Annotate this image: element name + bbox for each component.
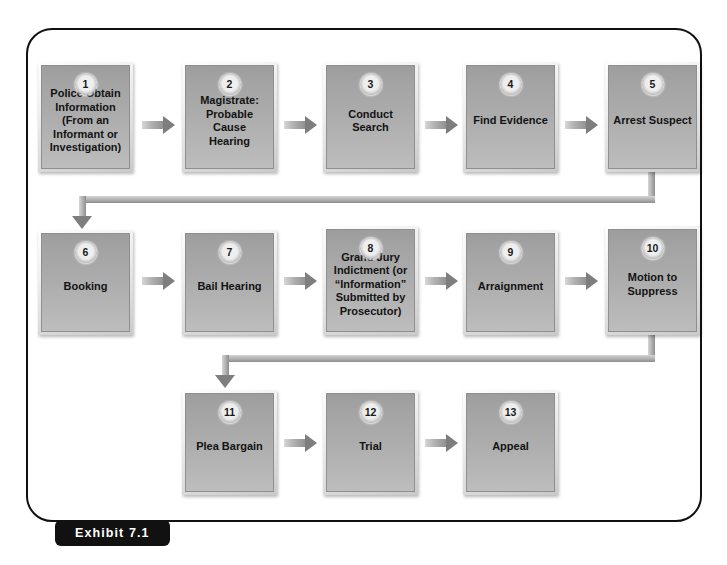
edge-8-to-9-arrowhead bbox=[446, 272, 458, 290]
flow-node-11-number: 11 bbox=[219, 402, 240, 423]
flow-node-5-label: Arrest Suspect bbox=[609, 114, 696, 128]
edge-6-to-7 bbox=[142, 272, 175, 290]
edge-7-to-8 bbox=[284, 272, 317, 290]
flow-node-12-number: 12 bbox=[360, 402, 381, 423]
flow-node-6[interactable]: 6 Booking bbox=[38, 230, 133, 335]
flow-node-7-body: 7 Bail Hearing bbox=[185, 233, 274, 332]
diagram-canvas: 1 Police Obtain Information (From an Inf… bbox=[0, 0, 727, 565]
flow-node-3-label: Conduct Search bbox=[327, 108, 414, 135]
edge-9-to-10 bbox=[565, 272, 598, 290]
flow-node-13-body: 13 Appeal bbox=[466, 393, 555, 492]
edge-7-to-8-arrowhead bbox=[305, 272, 317, 290]
edge-12-to-13-arrowhead bbox=[446, 434, 458, 452]
flow-node-9-body: 9 Arraignment bbox=[466, 233, 555, 332]
flow-node-6-label: Booking bbox=[42, 280, 129, 294]
flow-node-8-body: 8 Grand Jury Indictment (or “Information… bbox=[326, 229, 415, 332]
flow-node-5-number: 5 bbox=[642, 74, 663, 95]
edge-7-to-8-shaft bbox=[284, 277, 306, 285]
edge-12-to-13-shaft bbox=[425, 439, 447, 447]
edge-9-to-10-shaft bbox=[565, 277, 587, 285]
flow-node-5[interactable]: 5 Arrest Suspect bbox=[605, 62, 700, 172]
flow-node-10[interactable]: 10 Motion to Suppress bbox=[605, 226, 700, 335]
flow-node-8[interactable]: 8 Grand Jury Indictment (or “Information… bbox=[323, 226, 418, 335]
flow-node-6-number: 6 bbox=[75, 242, 96, 263]
edge-5-to-6-vertical-left bbox=[79, 196, 86, 218]
flow-node-2-label: Magistrate: Probable Cause Hearing bbox=[186, 94, 273, 148]
flow-node-12-body: 12 Trial bbox=[326, 393, 415, 492]
flow-node-12-label: Trial bbox=[327, 440, 414, 454]
edge-8-to-9 bbox=[425, 272, 458, 290]
flow-node-8-label: Grand Jury Indictment (or “Information” … bbox=[327, 251, 414, 319]
flow-node-6-body: 6 Booking bbox=[41, 233, 130, 332]
flow-node-2[interactable]: 2 Magistrate: Probable Cause Hearing bbox=[182, 62, 277, 172]
edge-1-to-2-arrowhead bbox=[163, 116, 175, 134]
flow-node-3-body: 3 Conduct Search bbox=[326, 65, 415, 169]
flow-node-11[interactable]: 11 Plea Bargain bbox=[182, 390, 277, 495]
flow-node-4-label: Find Evidence bbox=[467, 114, 554, 128]
flow-node-7-number: 7 bbox=[219, 242, 240, 263]
flow-node-1-label: Police Obtain Information (From an Infor… bbox=[42, 87, 129, 155]
flow-node-9[interactable]: 9 Arraignment bbox=[463, 230, 558, 335]
flow-node-4-body: 4 Find Evidence bbox=[466, 65, 555, 169]
flow-node-1[interactable]: 1 Police Obtain Information (From an Inf… bbox=[38, 62, 133, 172]
edge-10-to-11-arrowhead bbox=[215, 375, 235, 388]
flow-node-8-number: 8 bbox=[360, 238, 381, 259]
flow-node-2-number: 2 bbox=[219, 74, 240, 95]
edge-11-to-12 bbox=[284, 434, 317, 452]
edge-3-to-4-shaft bbox=[425, 121, 447, 129]
flow-node-4-number: 4 bbox=[500, 74, 521, 95]
flow-node-11-label: Plea Bargain bbox=[186, 440, 273, 454]
edge-9-to-10-arrowhead bbox=[586, 272, 598, 290]
edge-1-to-2-shaft bbox=[142, 121, 164, 129]
flow-node-10-body: 10 Motion to Suppress bbox=[608, 229, 697, 332]
flow-node-10-label: Motion to Suppress bbox=[609, 271, 696, 298]
edge-10-to-11-vertical-left bbox=[222, 355, 229, 377]
edge-6-to-7-shaft bbox=[142, 277, 164, 285]
flow-node-13[interactable]: 13 Appeal bbox=[463, 390, 558, 495]
edge-11-to-12-arrowhead bbox=[305, 434, 317, 452]
edge-10-to-11-horizontal bbox=[222, 355, 655, 362]
flow-node-1-body: 1 Police Obtain Information (From an Inf… bbox=[41, 65, 130, 169]
flow-node-13-label: Appeal bbox=[467, 440, 554, 454]
flow-node-3[interactable]: 3 Conduct Search bbox=[323, 62, 418, 172]
flow-node-13-number: 13 bbox=[500, 402, 521, 423]
edge-4-to-5-arrowhead bbox=[586, 116, 598, 134]
flow-node-3-number: 3 bbox=[360, 74, 381, 95]
edge-12-to-13 bbox=[425, 434, 458, 452]
edge-3-to-4-arrowhead bbox=[446, 116, 458, 134]
flow-node-1-number: 1 bbox=[75, 74, 96, 95]
edge-4-to-5-shaft bbox=[565, 121, 587, 129]
flow-node-10-number: 10 bbox=[642, 238, 663, 259]
edge-2-to-3-arrowhead bbox=[305, 116, 317, 134]
exhibit-label: Exhibit 7.1 bbox=[55, 520, 170, 546]
edge-5-to-6-arrowhead bbox=[72, 216, 92, 229]
edge-11-to-12-shaft bbox=[284, 439, 306, 447]
edge-3-to-4 bbox=[425, 116, 458, 134]
edge-1-to-2 bbox=[142, 116, 175, 134]
flow-node-11-body: 11 Plea Bargain bbox=[185, 393, 274, 492]
flow-node-5-body: 5 Arrest Suspect bbox=[608, 65, 697, 169]
flow-node-7[interactable]: 7 Bail Hearing bbox=[182, 230, 277, 335]
flow-node-12[interactable]: 12 Trial bbox=[323, 390, 418, 495]
flow-node-2-body: 2 Magistrate: Probable Cause Hearing bbox=[185, 65, 274, 169]
flow-node-7-label: Bail Hearing bbox=[186, 280, 273, 294]
edge-5-to-6-horizontal bbox=[79, 196, 655, 203]
edge-2-to-3-shaft bbox=[284, 121, 306, 129]
edge-2-to-3 bbox=[284, 116, 317, 134]
flow-node-9-number: 9 bbox=[500, 242, 521, 263]
flow-node-4[interactable]: 4 Find Evidence bbox=[463, 62, 558, 172]
edge-8-to-9-shaft bbox=[425, 277, 447, 285]
flow-node-9-label: Arraignment bbox=[467, 280, 554, 294]
edge-6-to-7-arrowhead bbox=[163, 272, 175, 290]
edge-4-to-5 bbox=[565, 116, 598, 134]
